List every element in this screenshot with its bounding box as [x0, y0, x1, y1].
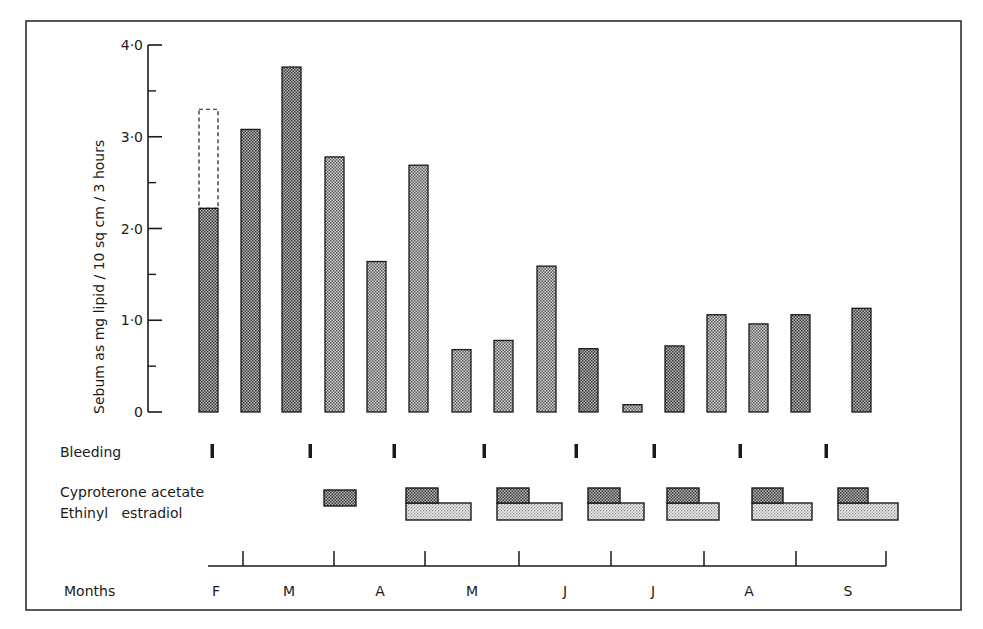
ethinyl-estradiol-block: [406, 503, 471, 520]
ethinyl-estradiol-block: [838, 503, 898, 520]
sebum-bar: [852, 308, 871, 412]
ethinyl-estradiol-block: [588, 503, 644, 520]
cyproterone-acetate-block: [324, 490, 356, 506]
sebum-bar-dashed-extension: [199, 109, 218, 208]
cyproterone-acetate-block: [406, 488, 438, 503]
y-tick-label: 3·0: [121, 129, 143, 145]
cyproterone-acetate-block: [667, 488, 699, 503]
bleeding-mark: [211, 444, 215, 458]
sebum-bar: [282, 67, 301, 412]
month-label: M: [283, 583, 295, 599]
bleeding-marks: [211, 444, 829, 458]
month-label: A: [375, 583, 385, 599]
month-label: A: [744, 583, 754, 599]
bleeding-mark: [653, 444, 657, 458]
y-tick-label: 2·0: [121, 221, 143, 237]
y-axis-title: Sebum as mg lipid / 10 sq cm / 3 hours: [91, 140, 107, 414]
sebum-bar: [241, 129, 260, 412]
y-tick-label: 1·0: [121, 312, 143, 328]
sebum-bar: [749, 324, 768, 412]
sebum-bar: [791, 315, 810, 412]
month-label: M: [466, 583, 478, 599]
sebum-bar: [367, 262, 386, 412]
cyproterone-acetate-block: [497, 488, 529, 503]
sebum-bar: [494, 340, 513, 412]
sebum-bar: [623, 405, 642, 412]
ethinyl-estradiol-blocks: [406, 503, 898, 520]
month-label: J: [562, 583, 567, 599]
ethinyl-estradiol-label: Ethinyl estradiol: [60, 505, 182, 521]
ethinyl-estradiol-block: [667, 503, 719, 520]
cyproterone-acetate-block: [588, 488, 620, 503]
sebum-bar: [665, 346, 684, 412]
cyproterone-acetate-label: Cyproterone acetate: [60, 484, 204, 500]
sebum-bar: [199, 208, 218, 412]
bleeding-mark: [739, 444, 743, 458]
bleeding-label: Bleeding: [60, 444, 121, 460]
months-axis: FMAMJJAS: [208, 551, 886, 599]
figure-frame: [26, 21, 961, 610]
sebum-bar: [537, 266, 556, 412]
bar-series: [199, 67, 871, 412]
sebum-bar: [579, 349, 598, 412]
bleeding-mark: [393, 444, 397, 458]
y-tick-label: 4·0: [121, 37, 143, 53]
sebum-bar: [409, 165, 428, 412]
months-label: Months: [64, 583, 115, 599]
month-label: J: [650, 583, 655, 599]
bleeding-mark: [309, 444, 313, 458]
bleeding-mark: [575, 444, 579, 458]
sebum-bar: [452, 350, 471, 412]
y-axis: 01·02·03·04·0: [121, 37, 162, 420]
month-label: S: [844, 583, 853, 599]
sebum-bar: [707, 315, 726, 412]
sebum-bar: [325, 157, 344, 412]
y-tick-label: 0: [134, 404, 143, 420]
cyproterone-acetate-block: [752, 488, 783, 503]
month-label: F: [212, 583, 220, 599]
ethinyl-estradiol-block: [497, 503, 562, 520]
bleeding-mark: [483, 444, 487, 458]
sebum-chart-figure: 01·02·03·04·0 Sebum as mg lipid / 10 sq …: [0, 0, 983, 629]
ethinyl-estradiol-block: [752, 503, 812, 520]
bleeding-mark: [825, 444, 829, 458]
cyproterone-acetate-block: [838, 488, 868, 503]
